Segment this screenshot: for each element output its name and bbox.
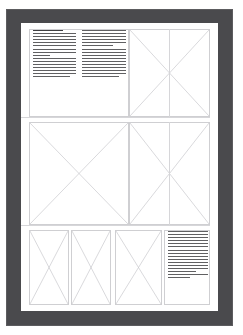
column-guide (169, 122, 170, 225)
screenshot-canvas: How to build a team? The moment you star… (0, 0, 243, 335)
body-column-right: primary motivation for teamwork. Product… (82, 30, 126, 116)
text-frame-top[interactable]: How to build a team? The moment you star… (29, 29, 129, 117)
page-sheet[interactable]: How to build a team? The moment you star… (21, 23, 218, 311)
image-frame-placeholder[interactable] (29, 122, 129, 225)
text-frame-bottom-right[interactable]: even especially intelligent to build a t… (164, 230, 210, 305)
image-frame-placeholder[interactable] (115, 230, 162, 305)
placeholder-diagonal-cross-icon (72, 231, 110, 304)
image-frame-placeholder[interactable] (29, 230, 69, 305)
body-column-left: How to build a team? The moment you star… (33, 30, 76, 116)
image-frame-placeholder[interactable] (71, 230, 111, 305)
placeholder-diagonal-cross-icon (30, 123, 128, 224)
band-divider-top (21, 117, 210, 118)
placeholder-diagonal-cross-icon (116, 231, 161, 304)
placeholder-diagonal-cross-icon (30, 231, 68, 304)
layout-grid: How to build a team? The moment you star… (29, 29, 210, 305)
body-column-bottom-right: even especially intelligent to build a t… (168, 231, 208, 304)
column-guide (169, 29, 170, 117)
band-divider-bottom (21, 225, 210, 226)
